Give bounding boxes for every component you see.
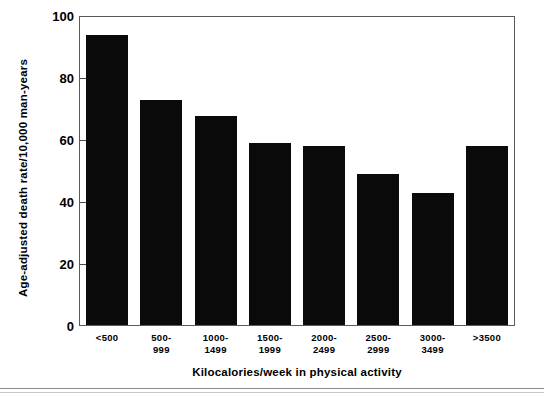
x-tick-label: 1500- 1999: [243, 332, 297, 355]
y-tick-label: 0: [14, 320, 74, 333]
y-tick-label: 40: [14, 196, 74, 209]
y-tick-label: 100: [14, 10, 74, 23]
x-tick-label: >3500: [460, 332, 514, 344]
x-tick-label: 2000- 2499: [297, 332, 351, 355]
x-tick-label: 3000- 3499: [406, 332, 460, 355]
figure-container: Age-adjusted death rate/10,000 man-years: [0, 0, 544, 396]
x-axis-title: Kilocalories/week in physical activity: [79, 366, 515, 378]
y-tick-label: 80: [14, 72, 74, 85]
x-tick-label: 1000- 1499: [189, 332, 243, 355]
x-tick-label: 500- 999: [134, 332, 188, 355]
x-axis-tick-labels: <500 500- 999 1000- 1499 1500- 1999 2000…: [80, 332, 514, 366]
page-divider: [0, 388, 544, 389]
y-tick-mark: [80, 78, 86, 79]
y-tick-mark: [80, 202, 86, 203]
y-tick-mark: [80, 140, 86, 141]
y-tick-mark: [80, 264, 86, 265]
x-tick-label: 2500- 2999: [351, 332, 405, 355]
y-tick-label: 20: [14, 258, 74, 271]
y-tick-label: 60: [14, 134, 74, 147]
x-tick-label: <500: [80, 332, 134, 344]
page-divider-secondary: [0, 392, 544, 393]
